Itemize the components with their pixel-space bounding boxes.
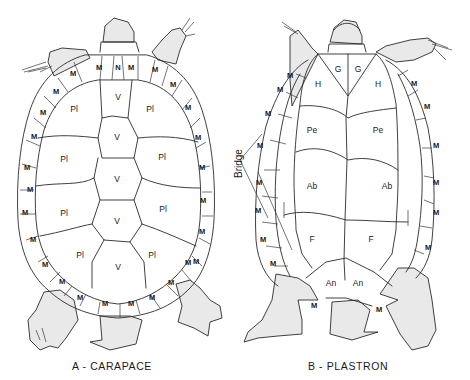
abdominal-right-label: Ab [382,181,393,191]
gular-left-label: G [335,64,342,74]
pleural-right-2-label: Pl [158,152,166,162]
carapace-marginals: M M M M M M M M M M M M M M M M M M M M … [22,63,206,308]
marginal-label: M [270,259,276,268]
marginal-label: M [31,132,37,141]
hind-right-limb-plastron [380,268,436,350]
marginal-label: M [30,235,36,244]
front-right-limb-plastron [376,38,436,62]
abdominal-femoral-seam [284,212,408,222]
neck-plastron [328,44,366,52]
neck-carapace [100,42,139,52]
humeral-pectoral-seam [300,106,396,118]
plastron-view: G G H H Pe Pe Ab Ab F F An An M M M M M … [240,20,452,350]
front-left-limb-plastron [290,30,318,106]
marginal-label: M [77,293,83,302]
bridge-annotation: Bridge [233,149,244,178]
marginal-label: M [376,305,382,314]
tail-carapace [90,316,142,350]
pectoral-right-label: Pe [373,125,384,135]
femoral-right-label: F [368,234,373,244]
caption-plastron: B - PLASTRON [308,360,388,372]
pleural-seams [36,136,200,246]
marginal-label: M [170,80,176,89]
marginal-label: M [185,258,191,267]
femoral-anal-seam [306,258,392,286]
plastron-midline [344,54,348,280]
hind-left-limb-carapace [28,290,78,350]
marginal-label: M [256,178,262,187]
plastron-marginal-inner [275,74,422,276]
gular-right-label: G [355,64,362,74]
marginal-label: M [102,299,108,308]
marginal-label: M [287,71,293,80]
head-carapace [103,18,134,42]
gular-seams [318,54,376,96]
marginal-label: M [128,299,134,308]
marginal-label: M [433,178,439,187]
marginal-label: M [199,163,205,172]
humeral-left-label: H [315,79,321,89]
pleural-right-3-label: Pl [159,204,167,214]
marginal-label: M [425,243,431,252]
marginal-label: M [40,108,46,117]
marginal-label: M [193,257,199,266]
marginal-label: M [70,69,76,78]
marginal-label: M [277,85,283,94]
bridge-pointer [240,134,292,250]
marginal-label: M [53,87,59,96]
marginal-label: M [96,63,102,72]
femoral-left-label: F [309,234,314,244]
marginal-label: M [22,208,28,217]
marginal-label: M [128,63,134,72]
anal-right-label: An [353,278,364,288]
vertebral-5-label: V [115,262,121,272]
humeral-right-label: H [375,79,381,89]
marginal-label: M [199,227,205,236]
marginal-label: M [424,102,430,111]
marginal-label: M [42,260,48,269]
marginal-label: M [433,208,439,217]
marginal-label: M [411,79,417,88]
pleural-right-1-label: Pl [146,104,154,114]
marginal-label: M [257,141,263,150]
vertebral-4-label: V [114,216,120,226]
marginal-label: M [265,109,271,118]
marginal-label: M [200,196,206,205]
marginal-label: M [433,141,439,150]
pectoral-left-label: Pe [307,125,318,135]
marginal-label: M [195,133,201,142]
marginal-label: M [27,185,33,194]
anal-left-label: An [326,278,337,288]
pleural-left-1-label: Pl [70,104,78,114]
caption-carapace: A - CARAPACE [72,360,152,372]
marginal-label: M [311,301,317,310]
marginal-label: M [149,293,155,302]
turtle-shell-diagram: N V V V V V Pl Pl Pl Pl Pl Pl Pl Pl M M … [0,0,470,380]
vertebral-1-label: V [115,92,121,102]
marginal-label: M [185,103,191,112]
marginal-label: M [24,163,30,172]
hind-right-limb-carapace [176,280,222,336]
nuchal-label: N [115,63,120,72]
pleural-left-2-label: Pl [60,154,68,164]
abdominal-left-label: Ab [307,181,318,191]
hind-left-limb-plastron [244,274,318,342]
marginal-label: M [59,277,65,286]
pleural-right-4-label: Pl [148,250,156,260]
carapace-view: N V V V V V Pl Pl Pl Pl Pl Pl Pl Pl M M … [18,18,223,350]
marginal-label: M [255,206,261,215]
marginal-label: M [260,235,266,244]
marginal-label: M [168,278,174,287]
pleural-left-4-label: Pl [76,250,84,260]
vertebral-3-label: V [114,174,120,184]
pleural-left-3-label: Pl [60,208,68,218]
vertebral-2-label: V [114,132,120,142]
marginal-label: M [152,65,158,74]
